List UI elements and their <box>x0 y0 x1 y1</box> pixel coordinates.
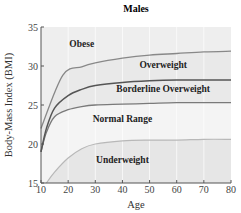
y-tick-label: 35 <box>28 22 38 33</box>
x-tick-label: 20 <box>63 184 73 195</box>
y-tick-label: 25 <box>28 100 38 111</box>
y-axis-label: Body-Mass Index (BMI) <box>3 52 15 157</box>
region-label: Overweight <box>139 60 187 70</box>
x-tick-label: 60 <box>172 184 182 195</box>
y-tick-label: 15 <box>28 178 38 189</box>
y-tick-label: 30 <box>28 61 38 72</box>
bmi-chart: Males ObeseOverweightBorderline Overweig… <box>0 0 241 213</box>
x-tick-label: 80 <box>226 184 236 195</box>
x-axis-label: Age <box>127 199 145 210</box>
region-label: Normal Range <box>93 114 152 124</box>
region-label: Underweight <box>96 155 150 165</box>
x-tick-label: 70 <box>199 184 209 195</box>
region-label: Obese <box>69 39 94 49</box>
region-label: Borderline Overweight <box>116 84 210 94</box>
x-tick-label: 40 <box>117 184 127 195</box>
x-tick-label: 50 <box>145 184 155 195</box>
chart-title: Males <box>123 3 149 14</box>
x-tick-label: 30 <box>90 184 100 195</box>
y-tick-label: 20 <box>28 139 38 150</box>
